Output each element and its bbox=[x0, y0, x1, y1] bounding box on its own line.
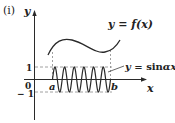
panel-label: (ⅰ) bbox=[3, 4, 15, 17]
f-label-prefix: y = bbox=[107, 18, 131, 31]
curve-f bbox=[48, 39, 120, 55]
sin-label-arg: αx bbox=[163, 61, 175, 72]
sin-label-func: sin bbox=[146, 61, 163, 72]
curve-sin-label: y = sinαx bbox=[124, 61, 175, 72]
sin-label-prefix: y = bbox=[124, 61, 146, 72]
f-label-arg: (x) bbox=[136, 18, 153, 31]
x-mark-b: b bbox=[111, 81, 118, 92]
curve-f-label: y = f(x) bbox=[107, 18, 153, 31]
y-axis-label: y bbox=[23, 5, 32, 18]
function-diagram: (ⅰ) y x 0 1 − 1 a b y = f(x) y = sinαx bbox=[0, 0, 175, 123]
x-mark-a: a bbox=[49, 81, 55, 92]
y-tick-neg1: − 1 bbox=[17, 89, 34, 99]
y-tick-1: 1 bbox=[26, 63, 32, 73]
x-axis-label: x bbox=[146, 82, 154, 95]
y-axis-arrow-icon bbox=[32, 10, 36, 16]
